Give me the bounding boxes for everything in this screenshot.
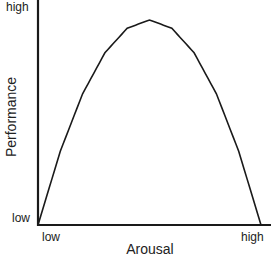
y-tick-high: high bbox=[6, 0, 29, 14]
performance-curve bbox=[38, 20, 261, 225]
y-axis-title: Performance bbox=[3, 77, 19, 157]
x-axis-title: Arousal bbox=[0, 241, 271, 257]
y-tick-low: low bbox=[12, 211, 30, 225]
chart-plot-area bbox=[0, 0, 271, 257]
